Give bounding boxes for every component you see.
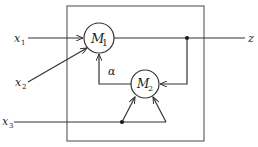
input-x1-subscript: 1 (21, 39, 25, 47)
edge-x3-to-m2-left (122, 97, 135, 122)
node-m2-subscript: 2 (148, 84, 153, 93)
input-x3-label: x (2, 115, 9, 128)
output-z-label: z (247, 32, 254, 45)
node-m1: M 1 (84, 23, 114, 53)
system-diagram: M 1 M 2 α x 1 x 2 x 3 z (0, 0, 258, 147)
edge-output-to-m2 (160, 38, 187, 84)
edge-x3-to-m2-right (153, 97, 166, 122)
input-x2-subscript: 2 (22, 83, 26, 91)
edge-x2-to-m1 (28, 48, 87, 82)
input-x1-label: x (14, 32, 21, 45)
alpha-label: α (108, 65, 116, 78)
input-x2-label: x (15, 76, 22, 89)
node-m1-subscript: 1 (102, 38, 108, 48)
node-m2: M 2 (131, 70, 159, 98)
input-x3-subscript: 3 (9, 122, 13, 130)
